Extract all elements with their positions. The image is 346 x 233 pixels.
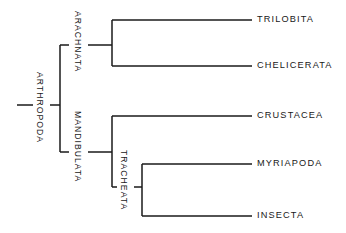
tip-label-myriapoda: MYRIAPODA — [257, 159, 322, 168]
node-label-tracheata: TRACHEATA — [119, 150, 128, 210]
node-label-mandibulata-text: MANDIBULATA — [73, 111, 82, 182]
node-label-arthropoda: ARTHROPODA — [35, 72, 44, 143]
node-label-mandibulata: MANDIBULATA — [73, 111, 82, 182]
tip-label-trilobita: TRILOBITA — [257, 15, 314, 24]
cladogram-figure: ARTHROPODA ARACHNATA MANDIBULATA TRACHEA… — [0, 0, 346, 233]
node-label-tracheata-text: TRACHEATA — [119, 150, 128, 210]
tip-label-chelicerata: CHELICERATA — [257, 61, 333, 70]
tip-label-crustacea: CRUSTACEA — [257, 111, 323, 120]
node-label-arthropoda-text: ARTHROPODA — [35, 72, 44, 143]
node-label-arachnata-text: ARACHNATA — [73, 11, 82, 72]
node-label-arachnata: ARACHNATA — [73, 11, 82, 72]
tip-label-insecta: INSECTA — [257, 211, 304, 220]
